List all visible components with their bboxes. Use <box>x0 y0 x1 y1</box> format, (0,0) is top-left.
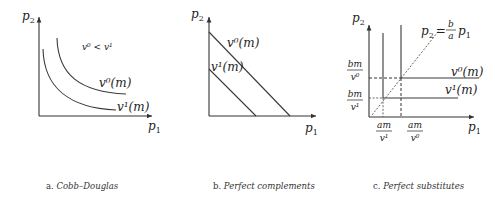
x-axis-label: p1 <box>468 120 481 136</box>
diagonal-frac-den: a <box>448 31 453 41</box>
y-axis-label: p2 <box>352 11 365 27</box>
caption-a: a. Cobb–Douglas <box>46 181 118 191</box>
diagonal-frac-num: b <box>448 19 454 29</box>
diagonal-ray <box>372 28 441 115</box>
diagonal-label: p2= <box>421 24 446 40</box>
y-tick-bm-v0-den: v⁰ <box>351 72 360 82</box>
curve-label-v1: v¹(m) <box>117 100 150 114</box>
line-label-v1: v¹(m) <box>445 83 478 97</box>
curve-label-v0: v⁰(m) <box>99 76 132 90</box>
line-v1 <box>209 69 256 116</box>
caption-b: b. Perfect complements <box>213 181 315 191</box>
line-label-v0: v⁰(m) <box>451 65 484 79</box>
panel-a-cobb-douglas: p2 p1 v⁰ < v¹ v⁰(m) v¹(m) <box>22 9 161 135</box>
x-tick-am-v1-num: am <box>377 120 391 130</box>
x-tick-am-v0-num: am <box>408 120 422 130</box>
y-axis-label: p2 <box>22 9 35 25</box>
x-tick-am-v1-den: v¹ <box>380 133 389 143</box>
x-axis-label: p1 <box>305 121 318 137</box>
inequality-annotation: v⁰ < v¹ <box>82 42 113 52</box>
caption-c: c. Perfect substitutes <box>373 181 464 191</box>
diagonal-label-rhs: p1 <box>458 24 471 40</box>
x-axis-label: p1 <box>148 119 161 135</box>
y-tick-bm-v0-num: bm <box>348 59 362 69</box>
y-tick-bm-v1-num: bm <box>348 89 362 99</box>
figure-canvas: p2 p1 v⁰ < v¹ v⁰(m) v¹(m) p2 p1 v⁰(m) v¹… <box>0 0 495 200</box>
line-label-v0: v⁰(m) <box>227 36 260 50</box>
panel-b-perfect-complements: p2 p1 v⁰(m) v¹(m) <box>191 7 318 137</box>
y-axis-label: p2 <box>191 7 204 23</box>
y-tick-bm-v1-den: v¹ <box>351 102 360 112</box>
x-tick-am-v0-den: v⁰ <box>411 133 420 143</box>
panel-c-perfect-substitutes: p2 p1 p2= b a p1 v⁰(m) v¹(m) bm v⁰ bm v¹… <box>347 11 484 143</box>
line-label-v1: v¹(m) <box>211 60 244 74</box>
